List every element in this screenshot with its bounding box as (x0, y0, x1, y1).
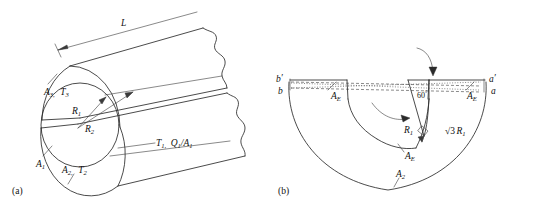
label-a3-t3: A3, T3 (43, 87, 69, 98)
label-a-prime: a′ (489, 73, 496, 84)
label-t1-q1-a1: T1, Q1/A1 (156, 138, 193, 149)
wedge-60deg (408, 80, 429, 136)
panel-a-group: A3, T3 A1 A2, T2 T1, Q1/A1 L R1 R2 (a) (12, 12, 245, 197)
outer-arc-a2 (289, 82, 486, 190)
fold-arrow-top (417, 48, 437, 76)
label-ae-right: AE (466, 91, 477, 102)
radius-arrows (78, 92, 133, 128)
caption-b: (b) (278, 186, 289, 197)
label-60-degrees: 60° (417, 90, 427, 100)
label-a2-b: A2 (395, 169, 406, 180)
inner-arc (377, 139, 416, 149)
label-a: a (491, 86, 496, 96)
label-b: b (278, 86, 283, 96)
label-R1: R1 (71, 106, 81, 117)
tube-body (70, 28, 245, 186)
figure-container: A3, T3 A1 A2, T2 T1, Q1/A1 L R1 R2 (a) (0, 0, 537, 205)
label-r1-b: R1 (403, 125, 413, 136)
label-b-prime: b′ (276, 73, 283, 84)
figure-svg: A3, T3 A1 A2, T2 T1, Q1/A1 L R1 R2 (a) (0, 0, 537, 205)
label-ae-left: AE (330, 91, 341, 102)
caption-a: (a) (12, 186, 23, 197)
label-length-L: L (120, 18, 126, 28)
label-R2: R2 (84, 124, 95, 135)
fold-arrow-left (372, 103, 410, 122)
label-a1: A1 (35, 159, 45, 170)
panel-b-group: b′ b a′ a AE AE AE A2 60° R1 √3R1 (b) (276, 48, 496, 197)
outer-cylinder-circle (41, 66, 126, 196)
label-ae-bottom: AE (404, 151, 415, 162)
label-sqrt3-r1: √3R1 (445, 126, 466, 137)
chord-lines (290, 79, 484, 92)
